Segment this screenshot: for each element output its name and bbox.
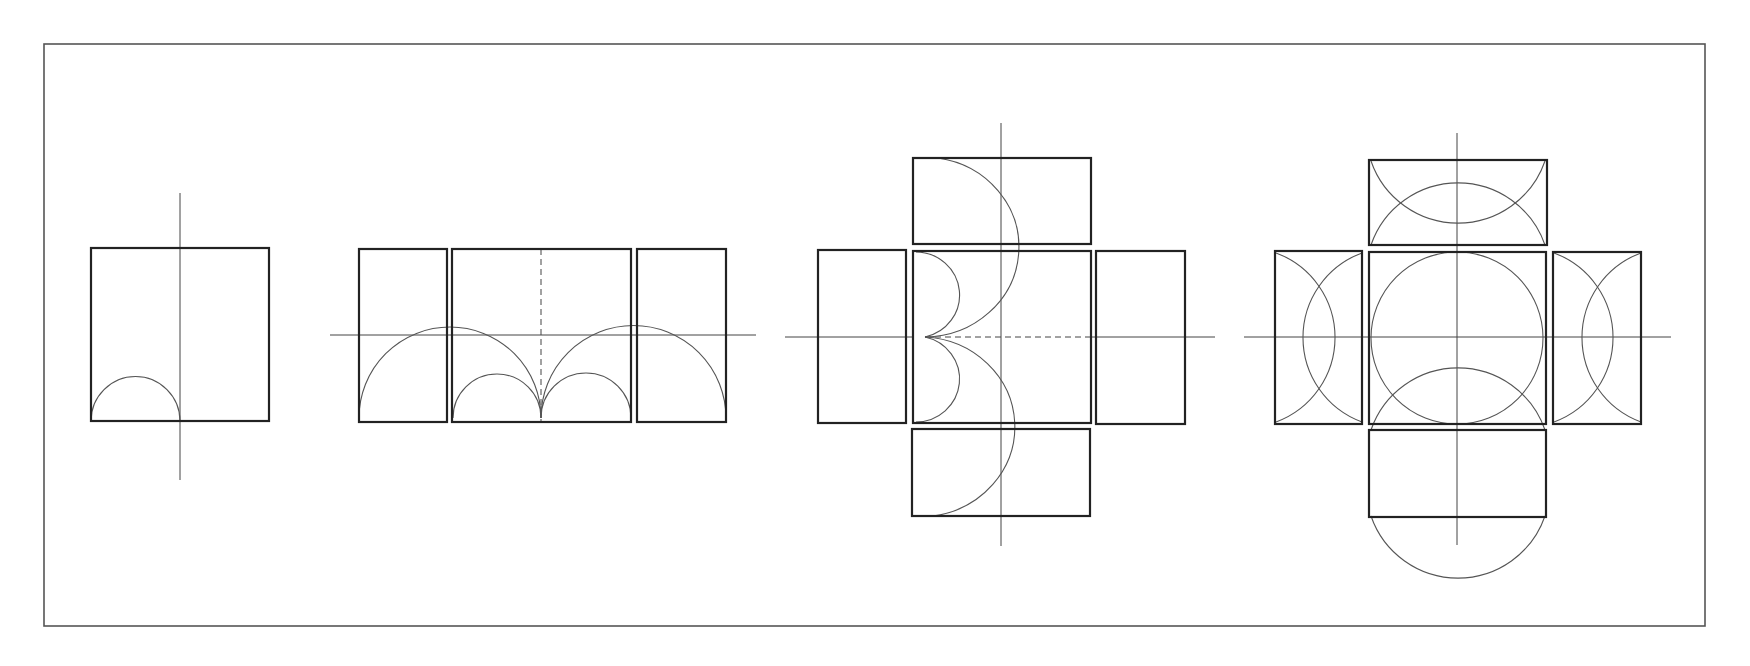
construction-arc xyxy=(916,252,960,337)
construction-arc xyxy=(91,377,180,422)
construction-arc xyxy=(925,158,1019,337)
panel-3 xyxy=(785,123,1215,546)
construction-arc xyxy=(359,327,541,418)
net-face-box xyxy=(1369,160,1547,245)
net-face-box xyxy=(1553,252,1641,424)
panels-group xyxy=(91,123,1671,578)
construction-arc xyxy=(1371,516,1545,578)
construction-arc xyxy=(1371,183,1545,245)
construction-arc xyxy=(1371,161,1545,223)
panel-2 xyxy=(330,249,756,422)
outer-frame xyxy=(44,44,1705,626)
panel-4 xyxy=(1244,133,1671,578)
net-face-box xyxy=(913,158,1091,244)
diagram-canvas: Geometric construction: box nets with ar… xyxy=(0,0,1750,666)
construction-arc xyxy=(541,326,726,419)
construction-diagram: Geometric construction: box nets with ar… xyxy=(0,0,1750,666)
panel-1 xyxy=(91,193,269,480)
construction-arc xyxy=(916,337,960,422)
construction-arc xyxy=(541,373,631,418)
construction-arc xyxy=(453,374,541,418)
